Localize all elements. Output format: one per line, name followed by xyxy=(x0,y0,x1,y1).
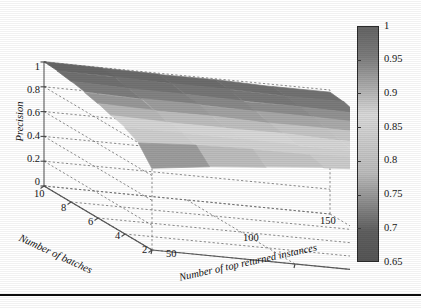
colorbar-tick-mark xyxy=(357,161,361,162)
y-tick: 100 xyxy=(243,233,259,244)
z-tick: 1 xyxy=(18,62,40,73)
colorbar-gradient xyxy=(358,27,378,261)
x-tick: 6 xyxy=(88,217,93,228)
x-tick: 8 xyxy=(61,203,66,214)
surface-mesh xyxy=(44,62,350,173)
x-tick: 2 xyxy=(142,245,147,256)
colorbar-tick-mark xyxy=(357,93,361,94)
figure-3d-surface-plot: 1 0.8 0.6 0.4 0.2 0 10 8 6 4 2 50 100 15… xyxy=(0,0,421,308)
colorbar-tick: 0.95 xyxy=(384,54,402,65)
x-tick: 4 xyxy=(115,231,120,242)
colorbar-tick: 1 xyxy=(384,21,389,32)
page-rule-divider xyxy=(0,294,421,296)
colorbar-tick-mark xyxy=(357,228,361,229)
colorbar-tick-mark xyxy=(357,127,361,128)
y-tick: 150 xyxy=(320,216,336,227)
colorbar-tick-mark xyxy=(357,195,361,196)
colorbar-tick: 0.8 xyxy=(384,155,397,166)
colorbar[interactable] xyxy=(357,26,379,262)
colorbar-tick: 0.9 xyxy=(384,88,397,99)
colorbar-tick: 0.85 xyxy=(384,122,402,133)
colorbar-tick: 0.65 xyxy=(384,257,402,268)
z-tick: 0 xyxy=(18,177,40,188)
x-tick: 10 xyxy=(34,189,45,200)
colorbar-tick: 0.7 xyxy=(384,223,397,234)
plot-area: 1 0.8 0.6 0.4 0.2 0 10 8 6 4 2 50 100 15… xyxy=(0,0,350,296)
y-tick: 50 xyxy=(166,249,177,260)
colorbar-tick: 0.75 xyxy=(384,189,402,200)
z-axis-label: Precision xyxy=(14,87,25,157)
colorbar-tick-mark xyxy=(357,60,361,61)
